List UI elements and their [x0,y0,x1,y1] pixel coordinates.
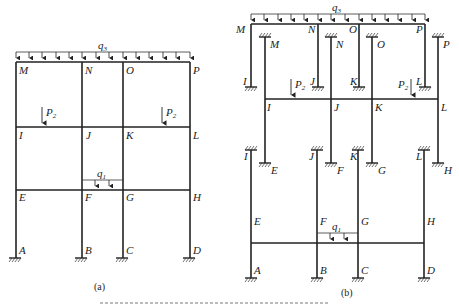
fixed-support-K-top-b [353,87,365,91]
node-F-b3: F [319,215,327,227]
node-J-b3: J [309,150,315,162]
svg-text:P2: P2 [165,106,177,120]
fixed-support-J-top-b [312,87,324,91]
svg-text:q3: q3 [98,39,108,53]
fixed-support-H-b [432,163,444,167]
node-E-a: E [18,191,26,203]
fixed-support-D-b [418,278,430,282]
fixed-support-B-b [311,278,323,282]
point-load-P2-right-b: P2 [397,78,411,95]
node-L-b1: L [415,75,422,87]
fixed-support-M-b [259,33,271,37]
distributed-load-q3-a: q3 [16,39,190,58]
node-O-a: O [126,64,134,76]
node-I-a: I [18,129,24,141]
node-C-b: C [361,264,369,276]
fixed-support-C-a [116,258,128,262]
svg-text:P2: P2 [397,78,409,92]
point-load-P2-left-b: P2 [291,78,306,95]
fixed-support-L-top-b [419,87,431,91]
fixed-support-F-b [325,163,337,167]
fixed-support-A-a [9,258,21,262]
node-F-b2: F [336,164,344,176]
node-H-b2: H [443,164,453,176]
node-L-b2: L [440,101,447,113]
node-K-a: K [125,129,134,141]
node-M-b1: M [235,23,246,35]
fixed-support-P-b [432,33,444,37]
node-B-a: B [85,244,92,256]
node-P-a: P [192,64,200,76]
node-L-a: L [192,129,199,141]
node-C-a: C [126,244,134,256]
distributed-load-q3-b: q3 [251,1,425,20]
svg-text:q3: q3 [332,1,342,15]
node-D-b: D [426,264,435,276]
node-I-b1: I [242,75,248,87]
point-load-P2-left-a: P2 [42,106,57,123]
node-G-b2: G [378,164,386,176]
frame-diagram: q3 P2 P2 q1 M N [0,0,459,306]
node-J-b2: J [334,101,340,113]
node-E-b3: E [253,215,261,227]
node-H-a: H [192,191,202,203]
node-K-b3: K [349,150,358,162]
node-N-a: N [84,64,93,76]
node-D-a: D [192,244,201,256]
node-O-b2: O [377,38,385,50]
node-G-a: G [126,191,134,203]
node-A-a: A [18,244,26,256]
node-E-b2: E [270,164,278,176]
fixed-support-E-b [259,163,271,167]
node-I-b2: I [266,101,272,113]
distributed-load-q1-a: q1 [82,167,123,186]
svg-text:P2: P2 [294,78,306,92]
node-N-b2: N [335,38,344,50]
node-M-a: M [18,64,29,76]
node-O-b1: O [349,23,357,35]
node-P-b2: P [442,38,450,50]
caption-a: (a) [94,281,105,293]
fixed-support-O-b [366,33,378,37]
svg-text:P2: P2 [45,106,57,120]
node-K-b2: K [374,101,383,113]
frame-a: q3 P2 P2 q1 M N [9,39,202,293]
node-P-b1: P [415,23,423,35]
node-H-b3: H [426,215,436,227]
fixed-support-D-a [183,258,195,262]
svg-text:q1: q1 [97,167,106,181]
fixed-support-I-top-b [245,87,257,91]
fixed-support-B-a [75,258,87,262]
node-K-b1: K [349,75,358,87]
node-I-b3: I [243,150,249,162]
frame-b: q3 M N O P I J K L M N O [235,1,453,299]
fixed-support-G-b [366,163,378,167]
fixed-support-C-b [352,278,364,282]
node-G-b3: G [361,215,369,227]
node-J-b1: J [310,75,316,87]
node-A-b: A [253,264,261,276]
fixed-support-A-b [245,278,257,282]
node-F-a: F [84,191,92,203]
point-load-P2-right-a: P2 [162,106,177,123]
node-J-a: J [86,129,92,141]
caption-b: (b) [341,287,353,299]
node-L-b3: L [415,150,422,162]
node-N-b1: N [307,23,316,35]
node-M-b2: M [269,38,280,50]
node-B-b: B [320,264,327,276]
fixed-support-N-b [325,33,337,37]
svg-text:q1: q1 [332,220,341,234]
